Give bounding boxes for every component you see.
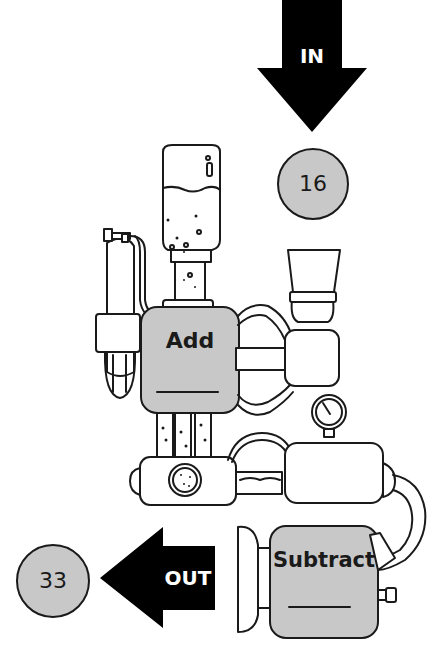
connector-pipes — [236, 250, 340, 415]
output-value: 33 — [17, 568, 89, 593]
subtract-label: Subtract — [270, 548, 378, 572]
add-box — [141, 307, 239, 413]
subtract-box — [270, 526, 378, 638]
add-label: Add — [141, 328, 239, 353]
subtract-machine — [238, 526, 396, 638]
pressure-tank — [285, 395, 395, 503]
out-arrow-label: OUT — [158, 566, 218, 590]
input-value: 16 — [278, 171, 348, 196]
bubble-columns — [157, 413, 211, 458]
in-arrow-label: IN — [282, 44, 342, 68]
liquid-bottle — [163, 145, 220, 310]
